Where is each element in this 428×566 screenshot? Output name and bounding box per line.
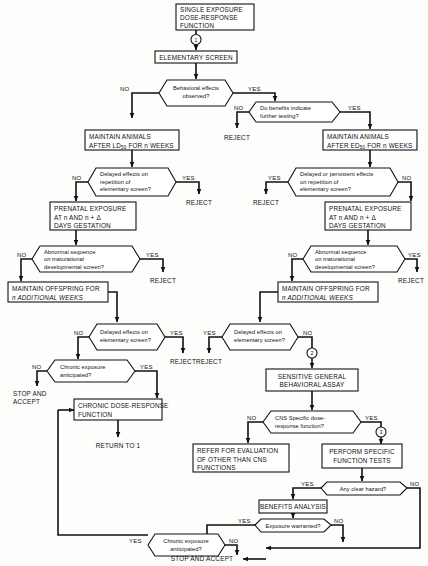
node-delayed-repetition-right[interactable]: Delayed or persistent effects on repetit… xyxy=(288,168,398,196)
benefits-analysis-label: BENEFITS ANALYSIS xyxy=(260,503,326,510)
label-benefits-no: NO xyxy=(234,105,244,111)
node-abnormal-left[interactable]: Abnormal sequence on maturational develo… xyxy=(32,246,140,272)
node-chronic-anticipated-bottom[interactable]: Chronic exposure anticipated? xyxy=(148,534,225,556)
single-exposure-line2: DOSE-RESPONSE xyxy=(180,14,238,21)
node-maintain-ld50[interactable]: MAINTAIN ANIMALS AFTER LD50 FOR n WEEKS xyxy=(85,130,179,150)
offspring-left-line1: MAINTAIN OFFSPRING FOR xyxy=(12,285,100,292)
label-delayed-rep-right-no: NO xyxy=(402,175,412,181)
node-any-clear-hazard[interactable]: Any clear hazard? xyxy=(321,482,407,495)
label-delayed-elem-right-yes: YES xyxy=(203,330,216,336)
sensitive-assay-line2: BEHAVIORAL ASSAY xyxy=(280,381,345,388)
terminal-reject-1: REJECT xyxy=(224,134,250,141)
refer-line1: REFER FOR EVALUATION xyxy=(197,447,278,454)
delayed-rep-left-line2: repetition of xyxy=(100,179,131,185)
connector-1-label: 1 xyxy=(195,37,198,43)
link-delayed-elem-left-no xyxy=(78,337,89,359)
node-prenatal-right[interactable]: PRENATAL EXPOSURE AT n AND n + Δ DAYS GE… xyxy=(325,202,411,230)
node-maintain-ed50[interactable]: MAINTAIN ANIMALS AFTER ED50 FOR n WEEKS xyxy=(323,130,417,150)
link-chronic-bottom-no xyxy=(225,545,237,555)
node-refer-evaluation[interactable]: REFER FOR EVALUATION OF OTHER THAN CNS F… xyxy=(193,444,289,472)
node-sensitive-assay[interactable]: SENSITIVE GENERAL BEHAVIORAL ASSAY xyxy=(266,369,358,391)
label-delayed-rep-right-yes: YES xyxy=(268,175,281,181)
terminal-stop-accept-bottom: STOP AND ACCEPT xyxy=(171,555,233,562)
offspring-left-line2: n ADDITIONAL WEEKS xyxy=(12,294,83,301)
chronic-left-line1: Chronic exposure xyxy=(60,364,105,370)
label-delayed-rep-left-no: NO xyxy=(72,175,82,181)
label-chronic-left-no: NO xyxy=(32,364,42,370)
chronic-dr-line2: FUNCTION xyxy=(78,411,112,418)
flowchart-canvas: SINGLE EXPOSURE DOSE-RESPONSE FUNCTION 1… xyxy=(0,0,428,566)
prenatal-left-line3: DAYS GESTATION xyxy=(54,222,111,229)
prenatal-left-line1: PRENATAL EXPOSURE xyxy=(54,205,126,212)
delayed-elem-right-line2: elementary screen? xyxy=(234,337,285,343)
cns-line2: response function? xyxy=(275,423,324,429)
node-offspring-left[interactable]: MAINTAIN OFFSPRING FOR n ADDITIONAL WEEK… xyxy=(8,282,108,302)
maintain-ld50-pre: AFTER LD xyxy=(89,142,121,149)
delayed-rep-right-line3: elementary screen? xyxy=(300,186,351,192)
link-behavioral-yes xyxy=(233,93,275,101)
connector-1[interactable]: 1 xyxy=(191,35,201,45)
prenatal-right-line1: PRENATAL EXPOSURE xyxy=(329,205,401,212)
maintain-ld50-post: FOR n WEEKS xyxy=(127,142,174,149)
maintain-ed50-pre: AFTER ED xyxy=(327,142,360,149)
node-cns-specific[interactable]: CNS Specific dose- response function? xyxy=(263,411,361,433)
perform-line2: FUNCTION TESTS xyxy=(333,457,390,464)
label-chronic-bottom-no: NO xyxy=(229,538,239,544)
node-abnormal-right[interactable]: Abnormal sequence on maturational develo… xyxy=(303,246,405,272)
node-perform-tests[interactable]: PERFORM SPECIFIC FUNCTION TESTS xyxy=(322,444,402,468)
node-prenatal-left[interactable]: PRENATAL EXPOSURE AT n AND n + Δ DAYS GE… xyxy=(50,202,136,230)
node-benefits-analysis[interactable]: BENEFITS ANALYSIS xyxy=(259,500,327,513)
single-exposure-line3: FUNCTION xyxy=(180,22,214,29)
node-single-exposure[interactable]: SINGLE EXPOSURE DOSE-RESPONSE FUNCTION xyxy=(176,4,254,30)
label-abnormal-right-no: NO xyxy=(288,252,298,258)
prenatal-left-line2: AT n AND n + Δ xyxy=(54,214,101,221)
node-elementary-screen[interactable]: ELEMENTARY SCREEN xyxy=(155,51,237,63)
label-behavioral-no: NO xyxy=(120,86,130,92)
abnormal-right-line1: Abnormal sequence xyxy=(315,249,366,255)
node-chronic-anticipated-left[interactable]: Chronic exposure anticipated? xyxy=(47,360,135,382)
chronic-bottom-line2: anticipated? xyxy=(170,546,201,552)
node-delayed-elem-right[interactable]: Delayed effects on elementary screen? xyxy=(222,324,298,350)
chronic-bottom-line1: Chronic exposure xyxy=(163,538,208,544)
delayed-rep-left-line3: elementary screen? xyxy=(100,186,151,192)
terminal-reject-4: REJECT xyxy=(150,277,176,284)
abnormal-right-line2: on maturational xyxy=(315,256,355,262)
link-offspring-right-down xyxy=(260,292,278,322)
node-delayed-repetition-left[interactable]: Delayed effects on repetition of element… xyxy=(88,168,176,196)
label-warranted-no: NO xyxy=(334,518,344,524)
node-do-benefits[interactable]: Do benefits indicate further testing? xyxy=(249,102,340,122)
node-behavioral-effects[interactable]: Behavioral effects observed? xyxy=(159,80,233,106)
maintain-ld50-line1: MAINTAIN ANIMALS xyxy=(89,133,151,140)
prenatal-right-line2: AT n AND n + Δ xyxy=(329,214,376,221)
refer-line2: OF OTHER THAN CNS xyxy=(197,456,267,463)
terminal-reject-2: REJECT xyxy=(186,199,212,206)
link-abnormal-left-yes xyxy=(140,259,163,272)
connector-2[interactable]: 2 xyxy=(307,348,317,358)
refer-line3: FUNCTIONS xyxy=(197,464,236,471)
sensitive-assay-line1: SENSITIVE GENERAL xyxy=(278,373,347,380)
terminal-reject-5: REJECT xyxy=(398,277,424,284)
link-delayed-rep-left-no xyxy=(76,182,88,201)
node-delayed-elem-left[interactable]: Delayed effects on elementary screen? xyxy=(89,324,165,350)
link-benefits-yes xyxy=(340,112,370,129)
label-delayed-elem-left-no: NO xyxy=(74,330,84,336)
label-hazard-no: NO xyxy=(410,481,420,487)
behavioral-effects-line1: Behavioral effects xyxy=(173,85,219,91)
node-offspring-right[interactable]: MAINTAIN OFFSPRING FOR n ADDITIONAL WEEK… xyxy=(278,282,378,302)
link-abnormal-right-yes xyxy=(405,259,417,272)
link-abnormal-left-no xyxy=(21,259,32,281)
label-cns-yes: YES xyxy=(365,415,378,421)
connector-3[interactable]: 3 xyxy=(376,427,386,437)
connector-2-label: 2 xyxy=(311,350,314,356)
chronic-left-line2: anticipated? xyxy=(60,372,91,378)
node-chronic-dose-response[interactable]: CHRONIC DOSE-RESPONSE FUNCTION xyxy=(74,399,169,420)
label-cns-no: NO xyxy=(247,415,257,421)
delayed-rep-right-line2: on repetition of xyxy=(300,179,339,185)
offspring-right-line1: MAINTAIN OFFSPRING FOR xyxy=(282,285,370,292)
do-benefits-line2: further testing? xyxy=(260,113,299,119)
link-delayed-elem-left-yes xyxy=(165,337,183,353)
maintain-ed50-post: FOR n WEEKS xyxy=(365,142,412,149)
label-chronic-left-yes: YES xyxy=(140,364,153,370)
node-exposure-warranted[interactable]: Exposure warranted? xyxy=(255,519,331,532)
abnormal-left-line3: developmental screen? xyxy=(44,264,104,270)
